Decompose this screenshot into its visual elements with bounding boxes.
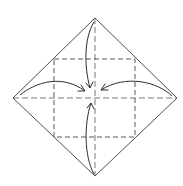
- diagram-svg: [0, 0, 183, 186]
- arrow-shaft: [20, 81, 85, 95]
- right-corner-arrow: [101, 81, 172, 96]
- arrow-shaft: [86, 22, 94, 88]
- origami-diagram: [0, 0, 183, 186]
- left-corner-arrow: [20, 81, 85, 95]
- bottom-corner-arrow: [86, 103, 94, 174]
- arrow-shaft: [101, 81, 172, 96]
- arrow-shaft: [86, 103, 94, 174]
- arrowhead-icon: [78, 85, 85, 91]
- top-corner-arrow: [86, 22, 94, 88]
